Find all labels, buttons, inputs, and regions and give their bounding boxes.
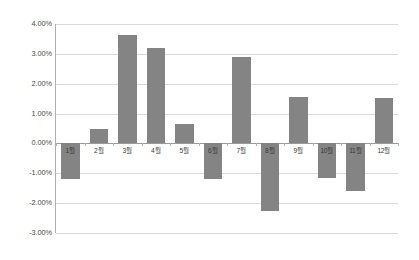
x-axis-tick-label: 8월 — [256, 147, 285, 155]
x-axis-tick-label: 10월 — [313, 147, 342, 155]
y-axis-tick-label: -3.00% — [8, 228, 52, 237]
x-axis-tick-label: 11월 — [341, 147, 370, 155]
y-axis-tick-label: 3.00% — [8, 49, 52, 58]
x-axis-tick-mark — [398, 143, 399, 146]
y-axis-tick-label: 2.00% — [8, 79, 52, 88]
y-axis-labels: 4.00%3.00%2.00%1.00%0.00%-1.00%-2.00%-3.… — [0, 0, 52, 260]
y-axis-tick-label: 1.00% — [8, 109, 52, 118]
x-axis-tick-label: 3월 — [113, 147, 142, 155]
x-axis-tick-label: 6월 — [199, 147, 228, 155]
x-axis-tick-label: 5월 — [170, 147, 199, 155]
x-axis-tick-label: 9월 — [284, 147, 313, 155]
tickmarks-layer — [56, 24, 398, 233]
y-axis-tick-label: -1.00% — [8, 168, 52, 177]
y-axis-tick-label: -2.00% — [8, 198, 52, 207]
gridline — [56, 233, 398, 234]
x-axis-tick-label: 7월 — [227, 147, 256, 155]
y-axis-tick-label: 4.00% — [8, 19, 52, 28]
x-axis-tick-label: 2월 — [85, 147, 114, 155]
plot-area — [56, 24, 398, 233]
x-axis-tick-label: 12월 — [370, 147, 399, 155]
bar-chart: 4.00%3.00%2.00%1.00%0.00%-1.00%-2.00%-3.… — [0, 0, 419, 260]
x-axis-tick-label: 4월 — [142, 147, 171, 155]
y-axis-tick-label: 0.00% — [8, 138, 52, 147]
x-axis-tick-label: 1월 — [56, 147, 85, 155]
